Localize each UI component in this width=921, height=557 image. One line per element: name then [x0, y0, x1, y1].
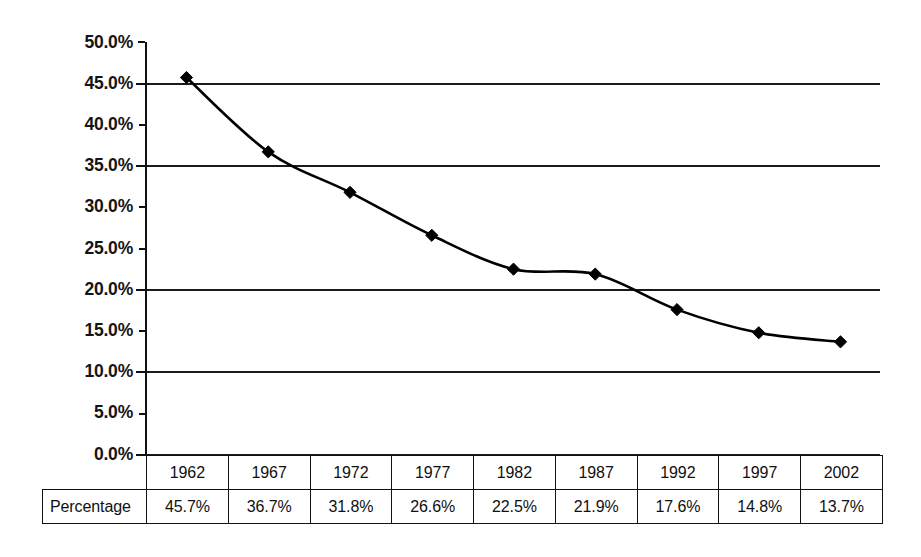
table-column-header: 1987 — [555, 456, 637, 490]
data-point-marker — [671, 304, 683, 316]
data-series-line — [187, 78, 841, 342]
table-column-header: 1997 — [719, 456, 801, 490]
table-column-header: 1962 — [147, 456, 229, 490]
table-cell: 31.8% — [310, 490, 392, 524]
table-cell: 21.9% — [555, 490, 637, 524]
table-cell: 14.8% — [719, 490, 801, 524]
table-column-header: 1972 — [310, 456, 392, 490]
table-column-header: 2002 — [801, 456, 883, 490]
table-column-header: 1982 — [474, 456, 556, 490]
table-cell: 36.7% — [228, 490, 310, 524]
table-cell: 17.6% — [637, 490, 719, 524]
data-point-marker — [834, 336, 846, 348]
table-row: Percentage 45.7% 36.7% 31.8% 26.6% 22.5%… — [43, 490, 883, 524]
data-point-marker — [507, 263, 519, 275]
data-point-marker-group — [180, 71, 846, 348]
table-column-header: 1967 — [228, 456, 310, 490]
table-corner-cell — [43, 456, 147, 490]
y-axis-tick-marks — [136, 42, 145, 455]
table-header-row: 1962 1967 1972 1977 1982 1987 1992 1997 … — [43, 456, 883, 490]
table-column-header: 1992 — [637, 456, 719, 490]
table-column-header: 1977 — [392, 456, 474, 490]
chart-container: 50.0% 45.0% 40.0% 35.0% 30.0% 25.0% 20.0… — [0, 0, 921, 557]
table-cell: 45.7% — [147, 490, 229, 524]
data-point-marker — [753, 327, 765, 339]
table-cell: 13.7% — [801, 490, 883, 524]
data-point-marker — [589, 268, 601, 280]
data-point-marker — [344, 186, 356, 198]
data-point-marker — [426, 229, 438, 241]
table-cell: 26.6% — [392, 490, 474, 524]
table-row-header: Percentage — [43, 490, 147, 524]
table-cell: 22.5% — [474, 490, 556, 524]
data-table: 1962 1967 1972 1977 1982 1987 1992 1997 … — [42, 455, 883, 524]
